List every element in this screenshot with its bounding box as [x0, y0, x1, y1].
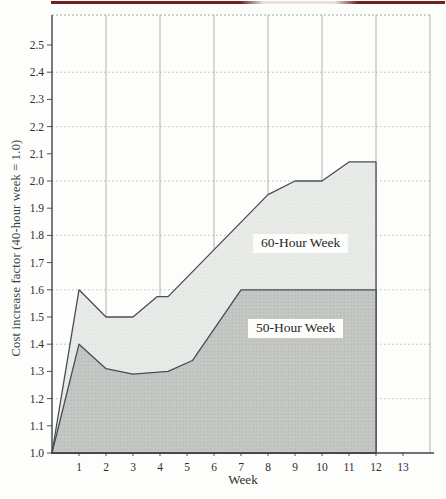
chart-canvas: 1.01.11.21.31.41.51.61.71.81.92.02.12.22…	[0, 0, 446, 499]
x-tick-label: 5	[184, 461, 190, 473]
x-tick-label: 4	[157, 461, 163, 473]
x-tick-label: 1	[76, 461, 82, 473]
y-tick-label: 1.6	[30, 284, 45, 296]
y-tick-label: 1.4	[30, 338, 45, 350]
y-tick-label: 2.0	[30, 175, 45, 187]
x-tick-label: 9	[292, 461, 298, 473]
y-tick-label: 2.2	[30, 121, 45, 133]
y-tick-label: 1.0	[30, 447, 45, 459]
y-axis-title: Cost increase factor (40-hour week = 1.0…	[9, 140, 24, 357]
y-tick-label: 2.1	[30, 148, 45, 160]
y-tick-label: 1.1	[30, 420, 45, 432]
y-tick-label: 1.3	[30, 365, 45, 377]
y-tick-label: 1.2	[30, 393, 45, 405]
x-tick-label: 13	[397, 461, 409, 473]
x-tick-label: 6	[211, 461, 217, 473]
x-tick-label: 10	[316, 461, 328, 473]
y-tick-label: 2.3	[30, 93, 45, 105]
x-tick-label: 7	[238, 461, 244, 473]
y-tick-label: 2.4	[30, 66, 45, 78]
series-label-60-hour-week: 60-Hour Week	[253, 234, 348, 253]
x-tick-label: 2	[103, 461, 109, 473]
y-tick-label: 1.5	[30, 311, 45, 323]
y-tick-label: 1.8	[30, 229, 45, 241]
x-tick-label: 3	[130, 461, 136, 473]
series-label-50-hour-week: 50-Hour Week	[248, 319, 343, 338]
y-tick-label: 1.9	[30, 202, 45, 214]
x-tick-label: 12	[370, 461, 382, 473]
y-tick-label: 1.7	[30, 257, 45, 269]
x-tick-label: 11	[343, 461, 354, 473]
overtime-cost-figure: 1.01.11.21.31.41.51.61.71.81.92.02.12.22…	[0, 0, 446, 499]
y-tick-label: 2.5	[30, 39, 45, 51]
x-axis-title: Week	[228, 472, 257, 488]
x-tick-label: 8	[265, 461, 271, 473]
